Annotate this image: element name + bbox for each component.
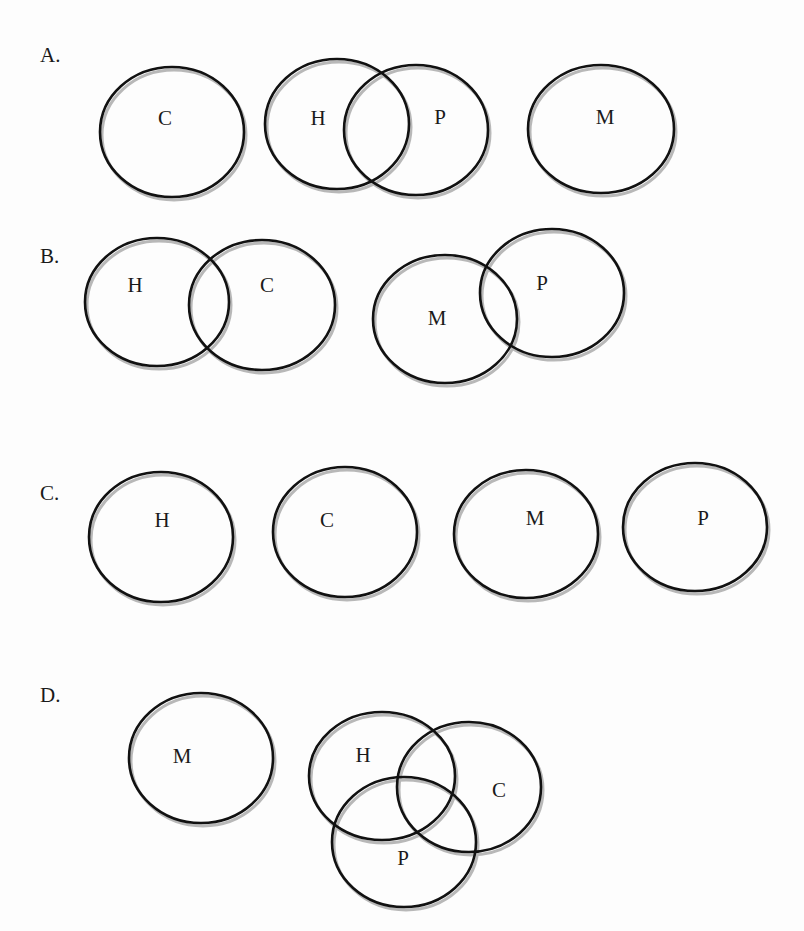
option-label: B. (40, 244, 59, 268)
set-circle-p (344, 65, 488, 195)
set-circle-c (189, 240, 335, 370)
option-c: C.HCMP (40, 463, 769, 605)
set-label-m: M (526, 506, 545, 530)
option-label: A. (40, 43, 60, 67)
set-circle-p (623, 463, 767, 591)
set-label-c: C (492, 778, 506, 802)
set-circle-m (454, 470, 598, 598)
set-label-p: P (434, 105, 446, 129)
set-label-p: P (536, 271, 548, 295)
set-label-h: H (127, 273, 142, 297)
set-label-h: H (154, 508, 169, 532)
set-label-c: C (320, 508, 334, 532)
set-circle-c (273, 467, 417, 597)
set-label-m: M (428, 306, 447, 330)
set-label-p: P (397, 846, 409, 870)
set-circle-c (100, 67, 244, 197)
set-circle-c (397, 722, 541, 852)
set-label-h: H (355, 743, 370, 767)
set-label-m: M (596, 105, 615, 129)
set-circle-h (265, 59, 409, 189)
set-label-h: H (310, 106, 325, 130)
set-circle-m (528, 65, 674, 193)
option-b: B.HCMP (40, 229, 626, 386)
set-circle-p (480, 229, 624, 357)
venn-options-diagram: A.CHPMB.HCMPC.HCMPD.MHCP (0, 0, 804, 931)
set-label-p: P (697, 506, 709, 530)
set-label-c: C (158, 106, 172, 130)
option-a: A.CHPM (40, 43, 676, 200)
option-d: D.MHCP (40, 683, 543, 910)
set-circle-h (89, 472, 233, 602)
set-circle-m (129, 693, 273, 823)
set-label-m: M (173, 744, 192, 768)
diagram-canvas: A.CHPMB.HCMPC.HCMPD.MHCP (0, 0, 804, 931)
set-label-c: C (260, 273, 274, 297)
option-label: D. (40, 683, 60, 707)
option-label: C. (40, 481, 59, 505)
